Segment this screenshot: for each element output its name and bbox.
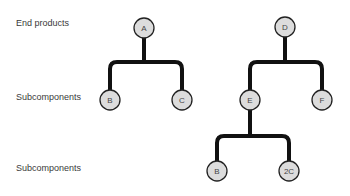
node-label: F (320, 96, 325, 105)
tree-connector-d (250, 37, 322, 90)
node-label: A (141, 24, 147, 33)
node-a: A (134, 18, 154, 38)
node-label: C (179, 96, 185, 105)
node-label: 2C (284, 167, 294, 176)
node-c2: 2C (279, 161, 299, 181)
node-b1: B (100, 90, 120, 110)
tree-connector-a (110, 38, 182, 90)
tree-edges (110, 37, 322, 161)
node-b2: B (207, 161, 227, 181)
tree-connector-e (217, 110, 289, 161)
node-label: B (107, 96, 112, 105)
node-f: F (312, 90, 332, 110)
node-c1: C (172, 90, 192, 110)
node-e: E (240, 90, 260, 110)
node-label: E (247, 96, 252, 105)
node-label: B (214, 167, 219, 176)
product-structure-diagram: ABCDEFB2C (0, 0, 350, 196)
node-d: D (275, 17, 295, 37)
node-label: D (282, 23, 288, 32)
